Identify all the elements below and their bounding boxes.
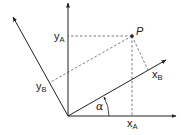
point-P xyxy=(130,34,134,38)
label-P: P xyxy=(136,25,144,37)
label-xA: xA xyxy=(127,117,138,131)
label-alpha: α xyxy=(96,100,104,113)
angle-arc-icon xyxy=(104,97,109,116)
label-yB: yB xyxy=(36,80,47,94)
axis-yB xyxy=(13,17,68,116)
projection-P-to-xB xyxy=(132,36,148,70)
coordinate-rotation-diagram: yA P xB yB α xA xyxy=(0,0,185,135)
label-yA: yA xyxy=(54,30,65,44)
label-xB: xB xyxy=(152,68,163,82)
